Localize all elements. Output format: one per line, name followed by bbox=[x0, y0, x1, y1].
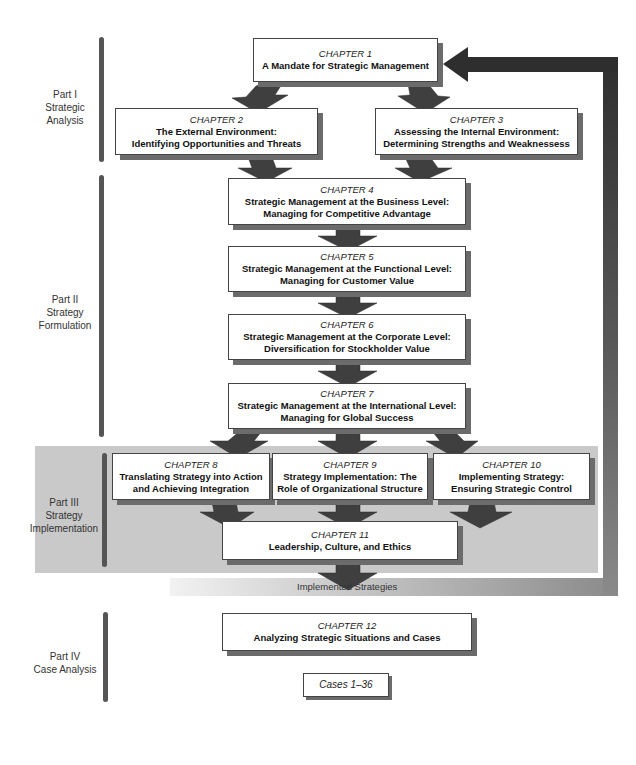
part-3-number: Part III bbox=[19, 496, 109, 509]
part-3-name-line2: Implementation bbox=[19, 522, 109, 535]
chapter-1-label: CHAPTER 1 bbox=[254, 48, 437, 60]
chapter-9-title-line2: Role of Organizational Structure bbox=[273, 483, 427, 495]
chapter-6-title-line2: Diversification for Stockholder Value bbox=[229, 343, 465, 355]
chapter-1-title: A Mandate for Strategic Management bbox=[254, 60, 437, 72]
part-1-name-line2: Analysis bbox=[20, 114, 110, 127]
cases-label: Cases 1–36 bbox=[304, 679, 388, 691]
chapter-11-title: Leadership, Culture, and Ethics bbox=[223, 541, 457, 553]
chapter-8-label: CHAPTER 8 bbox=[113, 459, 269, 471]
chapter-11-box: CHAPTER 11 Leadership, Culture, and Ethi… bbox=[222, 521, 458, 560]
chapter-12-title: Analyzing Strategic Situations and Cases bbox=[223, 632, 471, 644]
chapter-1-box: CHAPTER 1 A Mandate for Strategic Manage… bbox=[253, 38, 438, 82]
chapter-3-title-line1: Assessing the Internal Environment: bbox=[376, 126, 577, 138]
chapter-4-label: CHAPTER 4 bbox=[229, 184, 465, 196]
chapter-10-title-line2: Ensuring Strategic Control bbox=[434, 483, 589, 495]
chapter-8-box: CHAPTER 8 Translating Strategy into Acti… bbox=[112, 453, 270, 500]
part-1-label: Part I Strategic Analysis bbox=[20, 88, 110, 127]
chapter-10-title-line1: Implementing Strategy: bbox=[434, 471, 589, 483]
chapter-6-box: CHAPTER 6 Strategic Management at the Co… bbox=[228, 314, 466, 360]
chapter-9-box: CHAPTER 9 Strategy Implementation: The R… bbox=[272, 453, 428, 500]
chapter-4-title-line1: Strategic Management at the Business Lev… bbox=[229, 196, 465, 208]
feedback-top-band bbox=[463, 57, 618, 72]
chapter-2-label: CHAPTER 2 bbox=[116, 114, 317, 126]
chapter-4-title-line2: Managing for Competitive Advantage bbox=[229, 208, 465, 220]
chapter-3-box: CHAPTER 3 Assessing the Internal Environ… bbox=[375, 108, 578, 155]
cases-box: Cases 1–36 bbox=[303, 673, 389, 697]
feedback-arrowhead-icon bbox=[443, 47, 468, 82]
chapter-5-label: CHAPTER 5 bbox=[229, 251, 465, 263]
feedback-right-band bbox=[603, 57, 618, 596]
chapter-8-title-line1: Translating Strategy into Action bbox=[113, 471, 269, 483]
part-1-name-line1: Strategic bbox=[20, 101, 110, 114]
chapter-4-box: CHAPTER 4 Strategic Management at the Bu… bbox=[228, 178, 466, 225]
chapter-8-title-line2: and Achieving Integration bbox=[113, 483, 269, 495]
part-3-name-line1: Strategy bbox=[19, 509, 109, 522]
chapter-10-box: CHAPTER 10 Implementing Strategy: Ensuri… bbox=[433, 453, 590, 500]
chapter-3-title-line2: Determining Strengths and Weaknessess bbox=[376, 138, 577, 150]
part-2-number: Part II bbox=[20, 293, 110, 306]
chapter-9-label: CHAPTER 9 bbox=[273, 459, 427, 471]
chapter-5-title-line2: Managing for Customer Value bbox=[229, 275, 465, 287]
part-2-name-line1: Strategy bbox=[20, 306, 110, 319]
chapter-11-label: CHAPTER 11 bbox=[223, 529, 457, 541]
chapter-7-box: CHAPTER 7 Strategic Management at the In… bbox=[228, 383, 466, 429]
part-4-number: Part IV bbox=[20, 650, 110, 663]
chapter-7-title-line2: Managing for Global Success bbox=[229, 412, 465, 424]
chapter-10-label: CHAPTER 10 bbox=[434, 459, 589, 471]
part-4-name: Case Analysis bbox=[20, 663, 110, 676]
implemented-strategies-band: Implemented Strategies bbox=[170, 578, 618, 596]
chapter-12-box: CHAPTER 12 Analyzing Strategic Situation… bbox=[222, 613, 472, 651]
chapter-5-box: CHAPTER 5 Strategic Management at the Fu… bbox=[228, 246, 466, 292]
chapter-2-box: CHAPTER 2 The External Environment: Iden… bbox=[115, 108, 318, 155]
arrow-ch10-to-ch11-icon bbox=[450, 502, 512, 528]
chapter-12-label: CHAPTER 12 bbox=[223, 620, 471, 632]
part-4-label: Part IV Case Analysis bbox=[20, 650, 110, 676]
chapter-9-title-line1: Strategy Implementation: The bbox=[273, 471, 427, 483]
part-2-label: Part II Strategy Formulation bbox=[20, 293, 110, 332]
part-2-name-line2: Formulation bbox=[20, 319, 110, 332]
chapter-5-title-line1: Strategic Management at the Functional L… bbox=[229, 263, 465, 275]
part-1-number: Part I bbox=[20, 88, 110, 101]
part-3-label: Part III Strategy Implementation bbox=[19, 496, 109, 535]
chapter-6-title-line1: Strategic Management at the Corporate Le… bbox=[229, 331, 465, 343]
chapter-6-label: CHAPTER 6 bbox=[229, 319, 465, 331]
chapter-2-title-line1: The External Environment: bbox=[116, 126, 317, 138]
chapter-7-label: CHAPTER 7 bbox=[229, 388, 465, 400]
chapter-2-title-line2: Identifying Opportunities and Threats bbox=[116, 138, 317, 150]
chapter-3-label: CHAPTER 3 bbox=[376, 114, 577, 126]
chapter-7-title-line1: Strategic Management at the Internationa… bbox=[229, 400, 465, 412]
implemented-strategies-label: Implemented Strategies bbox=[297, 578, 397, 596]
